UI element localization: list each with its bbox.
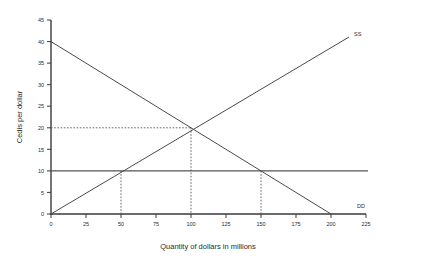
y-tick-label-10: 10 xyxy=(38,168,44,174)
ss-curve-label: SS xyxy=(354,31,362,37)
x-tick-label-175: 175 xyxy=(291,221,300,227)
y-tick-label-5: 5 xyxy=(41,190,44,196)
chart-canvas: 0 5 10 15 20 25 30 35 40 45 0 25 50 75 1… xyxy=(0,0,424,260)
y-tick-label-40: 40 xyxy=(38,39,44,45)
y-tick-label-35: 35 xyxy=(38,60,44,66)
y-tick-label-30: 30 xyxy=(38,82,44,88)
x-tick-label-0: 0 xyxy=(49,221,52,227)
y-tick-label-45: 45 xyxy=(38,17,44,23)
chart-background xyxy=(0,0,424,260)
dd-curve-label: DD xyxy=(357,203,365,209)
y-tick-label-25: 25 xyxy=(38,103,44,109)
y-tick-label-0: 0 xyxy=(41,211,44,217)
y-axis-title: Cedis per dollar xyxy=(15,90,24,143)
x-tick-label-125: 125 xyxy=(221,221,230,227)
x-tick-label-25: 25 xyxy=(83,221,89,227)
exchange-rate-chart: 0 5 10 15 20 25 30 35 40 45 0 25 50 75 1… xyxy=(0,0,424,260)
x-tick-label-225: 225 xyxy=(361,221,370,227)
x-tick-label-75: 75 xyxy=(153,221,159,227)
x-axis-title: Quantity of dollars in millions xyxy=(160,242,256,251)
x-tick-label-150: 150 xyxy=(256,221,265,227)
x-tick-label-100: 100 xyxy=(186,221,195,227)
x-tick-label-200: 200 xyxy=(326,221,335,227)
x-tick-label-50: 50 xyxy=(118,221,124,227)
y-tick-label-15: 15 xyxy=(38,147,44,153)
y-tick-label-20: 20 xyxy=(38,125,44,131)
